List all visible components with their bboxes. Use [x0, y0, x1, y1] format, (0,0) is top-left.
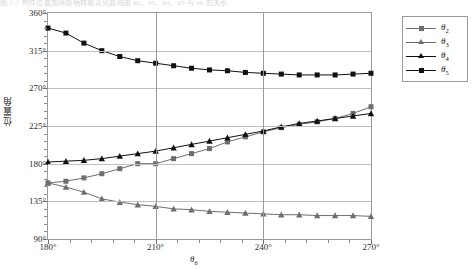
legend-box: θ2θ3θ4θ5	[402, 16, 468, 82]
y-tick-minor	[44, 231, 47, 232]
legend-label-theta5: θ5	[441, 64, 449, 76]
data-point-theta5	[81, 41, 86, 46]
y-tick-minor	[44, 111, 47, 112]
plot-area	[47, 12, 372, 240]
data-point-theta5	[243, 70, 248, 75]
data-point-theta5	[171, 63, 176, 68]
data-point-theta5	[117, 54, 122, 59]
y-gridline	[48, 88, 371, 89]
x-tick-label: 270°	[351, 243, 391, 252]
x-tick-minor	[177, 240, 178, 243]
data-point-theta5	[315, 72, 320, 77]
x-gridline	[263, 13, 264, 239]
y-tick-minor	[44, 58, 47, 59]
y-tick-label: 180°	[6, 160, 46, 169]
y-tick-label: 225°	[6, 122, 46, 131]
y-tick-minor	[44, 216, 47, 217]
legend-marker-square-icon	[419, 26, 424, 31]
y-tick-minor	[44, 66, 47, 67]
legend-item-theta2[interactable]: θ2	[406, 21, 464, 35]
legend-marker-triangle-icon	[418, 53, 424, 58]
data-point-theta2	[189, 151, 194, 156]
y-tick-minor	[44, 149, 47, 150]
data-point-theta5	[189, 66, 194, 71]
y-tick-minor	[44, 96, 47, 97]
y-tick-label: 360°	[6, 9, 46, 18]
data-point-theta2	[99, 171, 104, 176]
data-point-theta5	[297, 72, 302, 77]
y-tick-label: 270°	[6, 84, 46, 93]
y-tick-label: 135°	[6, 197, 46, 206]
series-line-theta4	[48, 113, 371, 162]
y-tick-minor	[44, 118, 47, 119]
data-point-theta5	[207, 67, 212, 72]
x-tick-minor	[91, 240, 92, 243]
legend-swatch-theta2	[406, 23, 436, 33]
legend-swatch-theta5	[406, 65, 436, 75]
y-tick-minor	[44, 209, 47, 210]
x-tick-minor	[328, 240, 329, 243]
y-tick-minor	[44, 28, 47, 29]
series-line-theta2	[48, 107, 371, 183]
legend-swatch-theta3	[406, 37, 436, 47]
y-tick-label: 315°	[6, 47, 46, 56]
x-tick-minor	[199, 240, 200, 243]
x-tick-minor	[349, 240, 350, 243]
x-tick-label: 210°	[136, 243, 176, 252]
x-tick-label: 240°	[243, 243, 283, 252]
legend-swatch-theta4	[406, 51, 436, 61]
data-point-theta2	[171, 156, 176, 161]
y-tick-minor	[44, 103, 47, 104]
data-point-theta5	[135, 58, 140, 63]
x-tick-minor	[113, 240, 114, 243]
legend-item-theta5[interactable]: θ5	[406, 63, 464, 77]
legend-item-theta4[interactable]: θ4	[406, 49, 464, 63]
data-point-theta5	[369, 71, 374, 76]
y-tick-minor	[44, 224, 47, 225]
y-tick-minor	[44, 171, 47, 172]
data-point-theta2	[63, 179, 68, 184]
x-axis-title: θ6	[190, 255, 198, 267]
legend-marker-triangle-icon	[418, 39, 424, 44]
data-point-theta2	[207, 146, 212, 151]
y-gridline	[48, 51, 371, 52]
y-tick-minor	[44, 134, 47, 135]
data-point-theta5	[351, 72, 356, 77]
legend-label-theta4: θ4	[441, 50, 449, 62]
data-point-theta4	[368, 110, 374, 116]
data-point-theta2	[117, 166, 122, 171]
x-axis-title-sub: 6	[194, 259, 197, 266]
y-tick-minor	[44, 186, 47, 187]
data-point-theta2	[369, 104, 374, 109]
x-tick-minor	[70, 240, 71, 243]
y-gridline	[48, 201, 371, 202]
y-tick-minor	[44, 156, 47, 157]
y-gridline	[48, 126, 371, 127]
y-tick-minor	[44, 194, 47, 195]
x-tick-label: 180°	[28, 243, 68, 252]
y-tick-minor	[44, 43, 47, 44]
data-point-theta5	[279, 72, 284, 77]
legend-label-theta2: θ2	[441, 22, 449, 34]
y-tick-minor	[44, 73, 47, 74]
legend-label-theta3: θ3	[441, 36, 449, 48]
data-point-theta5	[63, 31, 68, 36]
legend-marker-square-icon	[419, 68, 424, 73]
x-tick-minor	[134, 240, 135, 243]
y-tick-minor	[44, 21, 47, 22]
y-gridline	[48, 164, 371, 165]
data-point-theta2	[81, 175, 86, 180]
x-tick-minor	[242, 240, 243, 243]
data-point-theta5	[225, 68, 230, 73]
x-tick-minor	[220, 240, 221, 243]
y-tick-minor	[44, 179, 47, 180]
x-gridline	[156, 13, 157, 239]
x-tick-minor	[306, 240, 307, 243]
data-point-theta5	[333, 72, 338, 77]
clipped-caption: 图 5-7 构件位置角随曲柄转角变化曲线图 θ2、θ3、θ4、θ5 与 θ6 的…	[0, 0, 474, 7]
legend-item-theta3[interactable]: θ3	[406, 35, 464, 49]
y-tick-minor	[44, 36, 47, 37]
chart-figure: 图 5-7 构件位置角随曲柄转角变化曲线图 θ2、θ3、θ4、θ5 与 θ6 的…	[0, 0, 474, 270]
y-tick-minor	[44, 81, 47, 82]
x-tick-minor	[285, 240, 286, 243]
